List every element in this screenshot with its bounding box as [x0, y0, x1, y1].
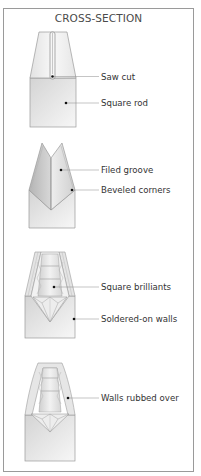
filed-groove-dot [60, 169, 63, 172]
square-rod-with-saw-cut [30, 32, 99, 127]
label-square-brilliants: Square brilliants [101, 282, 171, 292]
soldered-walls-dot [73, 318, 76, 321]
beveled-corners-dot [71, 189, 74, 192]
label-beveled-corners: Beveled corners [101, 185, 171, 195]
label-filed-groove: Filed groove [101, 165, 153, 175]
rod-with-walls-rubbed-over [25, 363, 99, 461]
label-walls-rubbed-over: Walls rubbed over [101, 393, 179, 403]
label-soldered-on-walls: Soldered-on walls [101, 314, 177, 324]
label-saw-cut: Saw cut [101, 72, 135, 82]
walls-rubbed-over-dot [67, 397, 70, 400]
square-rod-dot [65, 102, 68, 105]
saw-cut-dot [51, 75, 54, 78]
label-square-rod: Square rod [101, 98, 148, 108]
rod-with-soldered-walls-and-stones [25, 252, 99, 338]
rod-with-filed-groove [29, 143, 99, 228]
square-brilliants-dot [53, 286, 56, 289]
